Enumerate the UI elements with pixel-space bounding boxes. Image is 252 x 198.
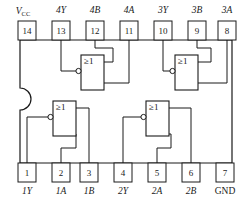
pin-label-2b: 2B: [186, 186, 197, 196]
ic-pinout-diagram: 14 13 12 11 10 9 8 VCC 4Y 4B 4A 3Y 3B 3A: [0, 0, 252, 198]
gate-2-inversion-bubble-icon: [141, 114, 146, 119]
pin-label-4b: 4B: [90, 5, 101, 15]
pin-number-5: 5: [155, 168, 160, 178]
gate-4-symbol: ≥1: [84, 56, 93, 66]
gate-1-symbol: ≥1: [56, 102, 65, 112]
pin-label-2y: 2Y: [118, 186, 130, 196]
pin-label-1y: 1Y: [22, 186, 34, 196]
pin-label-4a: 4A: [124, 5, 135, 15]
pin-number-7: 7: [223, 168, 228, 178]
gate-3-symbol: ≥1: [178, 56, 187, 66]
top-pins-group: 14 13 12 11 10 9 8: [18, 21, 236, 40]
pin-number-6: 6: [189, 168, 194, 178]
pin-number-3: 3: [87, 168, 92, 178]
bottom-pin-labels-group: 1Y 1A 1B 2Y 2A 2B GND: [22, 186, 235, 196]
pin-number-2: 2: [59, 168, 64, 178]
gate-3-inversion-bubble-icon: [170, 68, 175, 73]
pin-label-3y: 3Y: [157, 5, 170, 15]
gate-4-inversion-bubble-icon: [76, 68, 81, 73]
gate-2-symbol: ≥1: [149, 102, 158, 112]
bottom-pins-group: 1 2 3 4 5 6 7: [18, 163, 234, 182]
pin-number-1: 1: [25, 168, 30, 178]
pin-label-3b: 3B: [191, 5, 203, 15]
pin-number-8: 8: [225, 26, 230, 36]
pin-number-9: 9: [195, 26, 200, 36]
chip-body-outline: [20, 40, 232, 163]
top-pin-labels-group: VCC 4Y 4B 4A 3Y 3B 3A: [16, 5, 233, 17]
pin-label-1b: 1B: [84, 186, 95, 196]
pin-number-13: 13: [57, 26, 67, 36]
pin-label-2a: 2A: [152, 186, 163, 196]
pin-number-4: 4: [121, 168, 126, 178]
pin-label-vcc: VCC: [16, 6, 30, 17]
pin-number-10: 10: [159, 26, 169, 36]
pin-number-12: 12: [91, 26, 100, 36]
pin-number-11: 11: [125, 26, 134, 36]
pin-number-14: 14: [23, 26, 33, 36]
pin-label-1a: 1A: [56, 186, 67, 196]
pin-label-3a: 3A: [221, 5, 233, 15]
pin-label-4y: 4Y: [56, 5, 68, 15]
diagram-canvas: 14 13 12 11 10 9 8 VCC 4Y 4B 4A 3Y 3B 3A: [0, 0, 252, 198]
gate-1-inversion-bubble-icon: [48, 114, 53, 119]
pin-label-gnd: GND: [215, 186, 236, 196]
